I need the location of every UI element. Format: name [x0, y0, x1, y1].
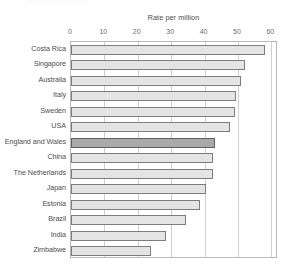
bar-singapore [71, 60, 245, 70]
y-label-the-netherlands: The Netherlands [0, 169, 66, 177]
bar-row [71, 107, 276, 117]
y-label-italy: Italy [0, 91, 66, 99]
bar-row [71, 246, 276, 256]
y-label-england-and-wales: England and Wales [0, 138, 66, 146]
bar-row [71, 153, 276, 163]
bar-italy [71, 91, 236, 101]
bar-usa [71, 122, 230, 132]
cropped-header-artifact [26, 0, 88, 4]
y-label-estonia: Estonia [0, 200, 66, 208]
bar-australia [71, 76, 241, 86]
bar-costa-rica [71, 45, 265, 55]
bar-row [71, 215, 276, 225]
x-tick-label-40: 40 [200, 28, 208, 35]
bar-sweden [71, 107, 235, 117]
x-tick-label-50: 50 [233, 28, 241, 35]
bar-china [71, 153, 213, 163]
bar-row [71, 169, 276, 179]
bar-the-netherlands [71, 169, 213, 179]
chart-axis-title: Rate per million [70, 13, 277, 22]
plot-area [70, 41, 277, 258]
bar-row [71, 184, 276, 194]
y-label-zimbabwe: Zimbabwe [0, 246, 66, 254]
bar-row [71, 91, 276, 101]
x-tick-label-0: 0 [68, 28, 72, 35]
y-label-brazil: Brazil [0, 215, 66, 223]
y-label-usa: USA [0, 122, 66, 130]
bar-england-and-wales [71, 138, 215, 148]
bar-row [71, 200, 276, 210]
bar-series [71, 42, 276, 257]
bar-india [71, 231, 166, 241]
bar-zimbabwe [71, 246, 151, 256]
x-tick-label-30: 30 [166, 28, 174, 35]
x-tick-label-60: 60 [266, 28, 274, 35]
y-label-australia: Australia [0, 76, 66, 84]
bar-row [71, 122, 276, 132]
y-axis-category-labels: Costa RicaSingaporeAustraliaItalySwedenU… [0, 41, 66, 258]
bar-estonia [71, 200, 200, 210]
x-tick-label-20: 20 [133, 28, 141, 35]
bar-row [71, 45, 276, 55]
bar-row [71, 76, 276, 86]
bar-japan [71, 184, 206, 194]
bar-brazil [71, 215, 186, 225]
bar-row [71, 231, 276, 241]
x-axis-tick-labels: 0102030405060 [0, 28, 286, 39]
bar-row [71, 138, 276, 148]
y-label-singapore: Singapore [0, 60, 66, 68]
y-label-japan: Japan [0, 184, 66, 192]
y-label-sweden: Sweden [0, 107, 66, 115]
y-label-china: China [0, 153, 66, 161]
bar-row [71, 60, 276, 70]
bar-chart-figure: Rate per million 0102030405060 Costa Ric… [0, 0, 286, 274]
y-label-costa-rica: Costa Rica [0, 45, 66, 53]
y-label-india: India [0, 231, 66, 239]
x-tick-label-10: 10 [99, 28, 107, 35]
